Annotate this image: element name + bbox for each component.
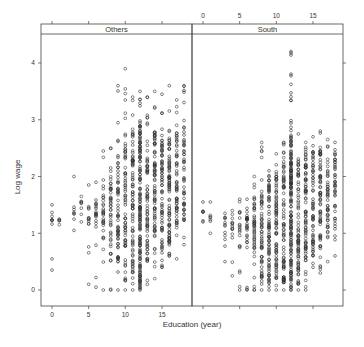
x-tick-label: 15 xyxy=(158,311,166,318)
data-point xyxy=(183,131,186,134)
y-tick-label: 2 xyxy=(31,173,35,180)
data-point xyxy=(224,234,227,237)
data-point xyxy=(224,231,227,234)
data-point xyxy=(175,105,178,108)
data-point xyxy=(304,259,307,262)
data-point xyxy=(253,263,256,266)
data-point xyxy=(224,238,227,241)
data-point xyxy=(117,90,120,93)
data-point xyxy=(95,226,98,229)
data-points xyxy=(202,50,337,291)
data-point xyxy=(124,99,127,102)
data-point xyxy=(183,243,186,246)
y-axis-label: Log wage xyxy=(13,159,22,194)
data-point xyxy=(326,158,329,161)
data-point xyxy=(268,289,271,292)
data-point xyxy=(297,224,300,227)
data-point xyxy=(246,210,249,213)
x-tick-label: 5 xyxy=(87,311,91,318)
data-point xyxy=(297,200,300,203)
data-points xyxy=(51,67,186,291)
data-point xyxy=(290,129,293,132)
data-point xyxy=(238,234,241,237)
data-point xyxy=(102,156,105,159)
data-point xyxy=(139,181,142,184)
data-point xyxy=(312,229,315,232)
data-point xyxy=(102,289,105,292)
data-point xyxy=(161,134,164,137)
data-point xyxy=(153,155,156,158)
data-point xyxy=(117,289,120,292)
data-point xyxy=(183,134,186,137)
data-point xyxy=(290,92,293,95)
data-point xyxy=(334,141,337,144)
data-point xyxy=(304,289,307,292)
data-point xyxy=(51,223,54,226)
data-point xyxy=(260,190,263,193)
data-point xyxy=(304,201,307,204)
strip-label: South xyxy=(258,25,278,34)
data-point xyxy=(238,217,241,220)
data-point xyxy=(161,251,164,254)
data-point xyxy=(282,212,285,215)
data-point xyxy=(224,221,227,224)
data-point xyxy=(260,207,263,210)
scatter-chart: OthersSouth00551010151501234 Education (… xyxy=(0,0,364,347)
panel-frame xyxy=(192,24,343,306)
data-point xyxy=(304,270,307,273)
data-point xyxy=(282,156,285,159)
data-point xyxy=(304,279,307,282)
data-point xyxy=(102,261,105,264)
data-point xyxy=(139,122,142,125)
data-point xyxy=(297,213,300,216)
data-point xyxy=(312,144,315,147)
data-point xyxy=(117,210,120,213)
data-point xyxy=(312,181,315,184)
data-point xyxy=(260,280,263,283)
data-point xyxy=(95,207,98,210)
data-point xyxy=(224,245,227,248)
data-point xyxy=(260,266,263,269)
data-point xyxy=(102,179,105,182)
data-point xyxy=(153,277,156,280)
data-point xyxy=(260,289,263,292)
data-point xyxy=(153,261,156,264)
data-point xyxy=(51,211,54,214)
data-point xyxy=(312,135,315,138)
data-point xyxy=(231,217,234,220)
data-point xyxy=(319,272,322,275)
data-point xyxy=(131,282,134,285)
data-point xyxy=(131,128,134,131)
data-point xyxy=(282,246,285,249)
data-point xyxy=(297,289,300,292)
data-point xyxy=(297,221,300,224)
data-point xyxy=(312,184,315,187)
data-point xyxy=(95,286,98,289)
data-point xyxy=(253,186,256,189)
data-point xyxy=(80,221,83,224)
panel-south: South xyxy=(192,24,343,306)
data-point xyxy=(168,228,171,231)
data-point xyxy=(51,258,54,261)
data-point xyxy=(231,233,234,236)
x-tick-label: 10 xyxy=(273,12,281,19)
data-point xyxy=(312,158,315,161)
data-point xyxy=(153,222,156,225)
data-point xyxy=(183,197,186,200)
x-tick-label: 10 xyxy=(122,311,130,318)
data-point xyxy=(161,197,164,200)
data-point xyxy=(202,201,205,204)
data-point xyxy=(109,170,112,173)
data-point xyxy=(117,207,120,210)
data-point xyxy=(102,187,105,190)
data-point xyxy=(95,244,98,247)
data-point xyxy=(246,246,249,249)
data-point xyxy=(334,210,337,213)
data-point xyxy=(231,209,234,212)
data-point xyxy=(175,124,178,127)
data-point xyxy=(253,285,256,288)
data-point xyxy=(139,90,142,93)
data-point xyxy=(275,284,278,287)
data-point xyxy=(146,204,149,207)
data-point xyxy=(224,212,227,215)
